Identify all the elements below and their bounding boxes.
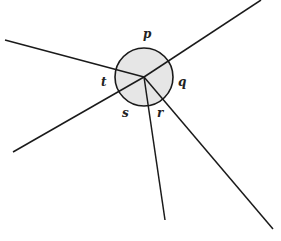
geometry-diagram: p q r s t [0, 0, 281, 241]
label-r: r [157, 106, 165, 120]
label-t: t [101, 75, 107, 89]
ray-upper-right [144, 0, 261, 77]
label-p: p [143, 27, 152, 41]
label-q: q [178, 75, 186, 89]
label-s: s [122, 106, 129, 120]
